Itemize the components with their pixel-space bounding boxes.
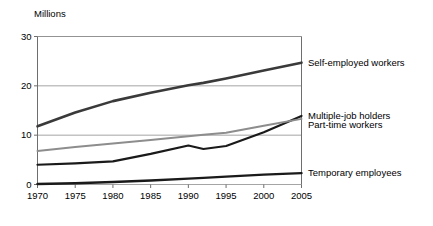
x-axis-tick-label: 2000 (244, 191, 284, 201)
x-axis-tick-label: 1970 (18, 191, 58, 201)
x-axis-tick-label: 1985 (131, 191, 171, 201)
x-axis-tick-label: 1990 (168, 191, 208, 201)
y-axis-tick-label: 10 (6, 130, 32, 140)
y-axis-tick-label: 20 (6, 81, 32, 91)
x-axis-tick-label: 1995 (206, 191, 246, 201)
y-axis-tick-label: 0 (6, 180, 32, 190)
chart-container: Millions 0102030 19701975198019851990199… (0, 0, 433, 226)
series-line-0 (38, 63, 302, 127)
series-label-0: Self-employed workers (308, 57, 405, 69)
y-axis-tick-label: 30 (6, 32, 32, 42)
x-axis-tick-label: 1980 (93, 191, 133, 201)
x-axis-tick-label: 2005 (282, 191, 322, 201)
series-line-3 (38, 173, 302, 184)
series-line-1 (38, 116, 302, 165)
series-label-3: Temporary employees (308, 167, 401, 179)
series-label-2: Part-time workers (308, 119, 382, 131)
x-axis-tick-label: 1975 (55, 191, 95, 201)
